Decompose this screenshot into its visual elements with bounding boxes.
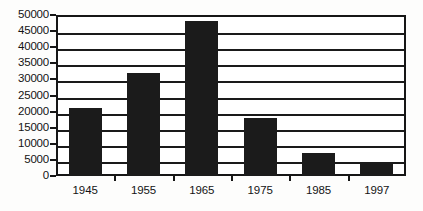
x-tick-mark xyxy=(114,176,116,181)
bar xyxy=(185,21,218,176)
bar-chart: 0500010000150002000025000300003500040000… xyxy=(0,0,423,211)
bars-layer xyxy=(56,15,406,176)
x-tick-label: 1975 xyxy=(248,185,273,197)
x-tick-label: 1945 xyxy=(73,185,98,197)
y-tick-label: 45000 xyxy=(18,25,49,37)
y-tick-label: 40000 xyxy=(18,41,49,53)
x-tick-label: 1985 xyxy=(306,185,331,197)
bar xyxy=(360,162,393,176)
y-axis: 0500010000150002000025000300003500040000… xyxy=(0,15,56,176)
y-tick-label: 20000 xyxy=(18,106,49,118)
bar xyxy=(244,118,277,176)
x-tick-label: 1965 xyxy=(189,185,214,197)
bar xyxy=(302,153,335,176)
y-tick-label: 5000 xyxy=(24,154,49,166)
x-tick-mark xyxy=(173,176,175,181)
y-tick-label: 15000 xyxy=(18,122,49,134)
bar xyxy=(69,108,102,176)
y-tick-label: 25000 xyxy=(18,90,49,102)
x-tick-label: 1997 xyxy=(364,185,389,197)
x-tick-mark xyxy=(289,176,291,181)
bar xyxy=(127,73,160,176)
x-tick-mark xyxy=(231,176,233,181)
y-tick-label: 35000 xyxy=(18,58,49,70)
x-tick-label: 1955 xyxy=(131,185,156,197)
x-axis: 194519551965197519851997 xyxy=(56,176,406,211)
y-tick-label: 30000 xyxy=(18,74,49,86)
y-tick-label: 10000 xyxy=(18,138,49,150)
x-tick-mark xyxy=(348,176,350,181)
y-tick-label: 50000 xyxy=(18,9,49,21)
y-tick-label: 0 xyxy=(43,170,49,182)
